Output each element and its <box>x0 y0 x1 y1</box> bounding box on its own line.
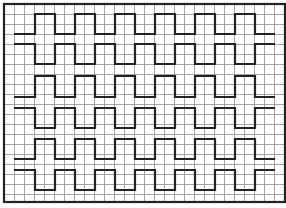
background <box>0 0 286 208</box>
graph-paper-figure <box>0 0 286 208</box>
